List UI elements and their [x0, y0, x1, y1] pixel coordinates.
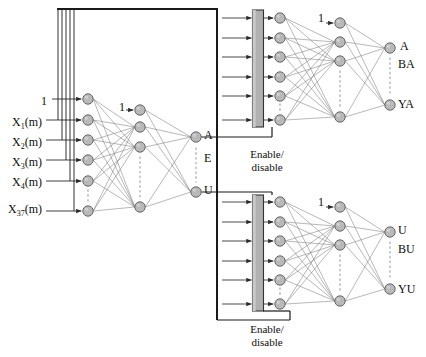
stage2-upper-edge-h2-o0: [345, 48, 385, 61]
stage1-edge-in-0-h3: [93, 99, 135, 207]
stage2-lower-hidden-node-0: [335, 202, 345, 212]
gate-upper-label: Enable/ disable: [236, 148, 298, 173]
stage1-edge-in-5-h2: [93, 147, 135, 211]
stage2-upper-edge-in3-h1: [285, 42, 335, 77]
stage1-edge-h3-o1: [145, 192, 191, 207]
stage1-hidden-node-1: [135, 122, 145, 132]
stage2-upper-input-node-4: [275, 91, 285, 101]
stage1-edge-h3-o0: [145, 137, 191, 207]
stage1-input-node-3: [83, 155, 93, 165]
stage2-lower-hidden-node-1: [335, 221, 345, 231]
stage1-output-label-e: E: [204, 152, 211, 164]
stage1-edge-in-2-h3: [93, 140, 135, 207]
stage2-lower-input-node-2: [275, 236, 285, 246]
diagram-canvas: 1 X1(m) X2(m) X3(m) X4(m) X37(m) 1 A E U…: [0, 0, 426, 357]
stage1-edge-in-4-h2: [93, 147, 135, 181]
stage1-hidden-node-3: [135, 202, 145, 212]
stage1-edge-in-4-h1: [93, 127, 135, 181]
stage1-input-node-2: [83, 135, 93, 145]
stage1-output-label-a: A: [204, 129, 213, 141]
stage2-lower-hidden-node-3: [335, 296, 345, 306]
stage1-input-node-5: [83, 206, 93, 216]
stage2-lower-hidden-bias-label: 1: [318, 196, 324, 208]
gate-lower-line1: Enable/: [250, 323, 284, 335]
stage1-hidden-bias-label: 1: [119, 101, 125, 113]
stage2-upper-input-node-2: [275, 52, 285, 62]
stage2-lower-edge-in4-h3: [285, 280, 335, 301]
stage1-output-node-1: [191, 187, 201, 197]
stage2-lower-input-node-3: [275, 256, 285, 266]
stage2-lower-input-node-0: [275, 197, 285, 207]
stage2-upper-edge-in0-h3: [285, 18, 335, 117]
stage2-lower-edge-h2-o0: [345, 232, 385, 245]
gate-lower-line2: disable: [251, 336, 282, 348]
stage2-upper-input-node-1: [275, 33, 285, 43]
stage2-upper-edge-h1-o1: [345, 42, 385, 105]
stage2-upper-output-node-1: [385, 100, 395, 110]
stage2-lower-output-node-0: [385, 227, 395, 237]
stage2-lower-edge-in3-h1: [285, 226, 335, 261]
stage2-lower-input-node-4: [275, 275, 285, 285]
stage2-lower-edge-in0-h3: [285, 202, 335, 301]
gate-upper-line2: disable: [251, 161, 282, 173]
stage1-edge-h0-o1: [145, 110, 191, 192]
gate-lower-bar-highlight: [253, 195, 256, 311]
stage2-upper-output-node-0: [385, 43, 395, 53]
stage1-input-node-0: [83, 94, 93, 104]
stage2-upper-hidden-node-3: [335, 112, 345, 122]
stage2-upper-hidden-node-0: [335, 18, 345, 28]
gate-upper-line1: Enable/: [250, 148, 284, 160]
stage2-lower-edge-h1-o1: [345, 226, 385, 289]
input-bias-label: 1: [41, 95, 47, 107]
stage2-lower-edge-h1-o0: [345, 226, 385, 232]
stage1-edge-in-3-h1: [93, 127, 135, 160]
gate-lower-label: Enable/ disable: [236, 323, 298, 348]
stage2-upper-input-node-5: [275, 115, 285, 125]
stage2-lower-output-label-u: U: [398, 224, 407, 236]
input-label-x1: X1(m): [12, 116, 42, 131]
stage1-edge-in-5-h3: [93, 207, 135, 211]
stage2-lower-input-node-1: [275, 217, 285, 227]
stage2-upper-hidden-node-1: [335, 37, 345, 47]
stage2-upper-edge-in4-h3: [285, 96, 335, 117]
input-label-x3: X3(m): [12, 156, 42, 171]
stage1-input-node-4: [83, 176, 93, 186]
stage2-upper-hidden-bias-label: 1: [318, 12, 324, 24]
stage1-edge-in-3-h2: [93, 147, 135, 160]
stage2-upper-edge-in5-h3: [285, 117, 335, 120]
stage1-edge-h0-o0: [145, 110, 191, 137]
stage2-upper-output-label-ba: BA: [398, 58, 415, 70]
stage1-output-node-0: [191, 132, 201, 142]
stage2-upper-edge-h1-o0: [345, 42, 385, 48]
input-label-x37: X37(m): [8, 203, 42, 218]
stage2-upper-input-node-0: [275, 13, 285, 23]
stage1-edge-h1-o1: [145, 127, 191, 192]
gate-upper-bar-highlight: [253, 10, 256, 127]
stage2-lower-output-label-bu: BU: [398, 243, 415, 255]
input-label-x2: X2(m): [12, 136, 42, 151]
stage2-upper-output-label-ya: YA: [398, 98, 414, 110]
stage2-upper-input-node-3: [275, 72, 285, 82]
stage2-lower-edge-in5-h3: [285, 301, 335, 304]
input-label-x4: X4(m): [12, 176, 42, 191]
stage1-edge-h2-o1: [145, 147, 191, 192]
stage1-hidden-node-2: [135, 142, 145, 152]
network-graphic: [0, 0, 426, 357]
stage1-edge-in-5-h1: [93, 127, 135, 211]
stage1-input-node-1: [83, 115, 93, 125]
stage1-edge-h1-o0: [145, 127, 191, 137]
stage2-lower-input-node-5: [275, 299, 285, 309]
stage2-lower-output-label-yu: YU: [398, 283, 415, 295]
stage1-edge-h2-o0: [145, 137, 191, 147]
stage1-hidden-node-0: [135, 105, 145, 115]
stage1-output-label-u: U: [204, 184, 213, 196]
stage1-edge-in-3-h3: [93, 160, 135, 207]
stage2-upper-hidden-node-2: [335, 56, 345, 66]
stage2-upper-output-label-a: A: [400, 40, 409, 52]
stage2-lower-output-node-1: [385, 284, 395, 294]
stage2-lower-hidden-node-2: [335, 240, 345, 250]
stage1-edge-in-1-h1: [93, 120, 135, 127]
